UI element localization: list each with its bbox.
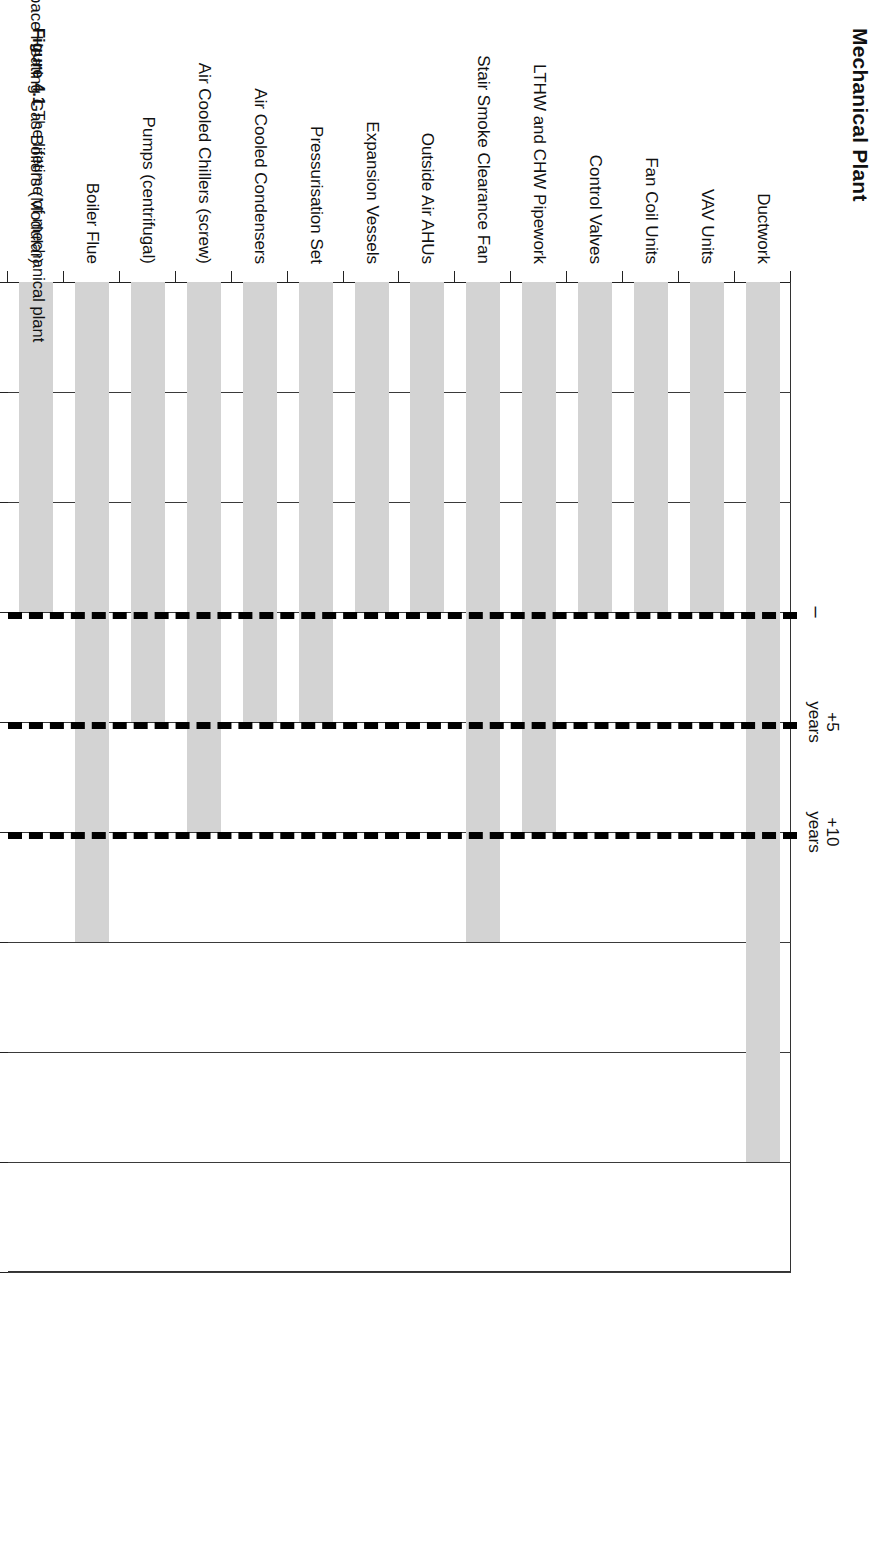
year-tick-2027: [0, 942, 8, 943]
category-label-11: Air Cooled Chillers (screw): [195, 63, 212, 264]
plus10-years-line2: years: [805, 811, 823, 853]
plot-area: [8, 282, 791, 1272]
category-tick: [399, 271, 400, 282]
dashed-marker-2022: [8, 832, 797, 839]
category-label-9: Pressurisation Set: [307, 126, 324, 264]
category-tick: [7, 271, 8, 282]
bar: [131, 282, 165, 722]
category-tick: [454, 271, 455, 282]
page-title: Mechanical Plant: [848, 28, 872, 202]
category-label-6: Stair Smoke Clearance Fan: [475, 55, 492, 264]
category-label-10: Air Cooled Condensers: [251, 88, 268, 264]
bar: [690, 282, 724, 612]
category-tick: [678, 271, 679, 282]
bar-group: [8, 282, 791, 1272]
category-tick: [343, 271, 344, 282]
category-label-8: Expansion Vessels: [363, 121, 380, 264]
category-label-4: Control Valves: [587, 155, 604, 264]
figure-canvas: Mechanical Plant DuctworkVAV UnitsFan Co…: [0, 0, 894, 1562]
plus10-years-line1: +10: [823, 811, 841, 853]
year-tick-2037: [0, 1162, 8, 1163]
gridline-2042: [8, 1272, 791, 1273]
category-tick: [622, 271, 623, 282]
year-tick-2022: [0, 832, 8, 833]
category-label-13: Boiler Flue: [83, 183, 100, 264]
category-label-1: Ductwork: [755, 193, 772, 264]
year-tick-2042: [0, 1272, 8, 1273]
year-tick-2002: [0, 392, 8, 393]
category-tick: [287, 271, 288, 282]
category-tick: [175, 271, 176, 282]
bar: [299, 282, 333, 722]
year-tick-2017: [0, 722, 8, 723]
category-label-7: Outside Air AHUs: [419, 133, 436, 264]
bar: [187, 282, 221, 832]
plus5-years: +5years: [805, 701, 841, 743]
now-marker: –: [807, 606, 827, 617]
category-tick: [790, 271, 791, 282]
figure-caption-text: The lifetime of mechanical plant: [30, 106, 48, 342]
category-label-12: Pumps (centrifugal): [139, 117, 156, 264]
category-tick: [510, 271, 511, 282]
bar: [578, 282, 612, 612]
category-label-5: LTHW and CHW Pipework: [531, 64, 548, 264]
bar: [522, 282, 556, 832]
plus5-years-line1: +5: [823, 701, 841, 743]
bar: [243, 282, 277, 722]
bar: [355, 282, 389, 612]
plus10-years: +10years: [805, 811, 841, 853]
bar: [410, 282, 444, 612]
category-tick: [231, 271, 232, 282]
year-tick-2032: [0, 1052, 8, 1053]
category-label-2: VAV Units: [699, 189, 716, 264]
plus5-years-line2: years: [805, 701, 823, 743]
category-tick: [566, 271, 567, 282]
bar: [634, 282, 668, 612]
dashed-marker-2017: [8, 722, 797, 729]
figure-caption: Figure 4.1 The lifetime of mechanical pl…: [29, 28, 48, 342]
figure-number: Figure 4.1: [30, 28, 48, 106]
dashed-marker-2012: [8, 612, 797, 619]
category-tick: [734, 271, 735, 282]
year-tick-2012: [0, 612, 8, 613]
year-tick-2007: [0, 502, 8, 503]
category-label-3: Fan Coil Units: [643, 157, 660, 264]
rotated-page-wrapper: Mechanical Plant DuctworkVAV UnitsFan Co…: [0, 0, 894, 1562]
category-tick: [63, 271, 64, 282]
year-tick-1997: [0, 282, 8, 283]
category-tick: [119, 271, 120, 282]
